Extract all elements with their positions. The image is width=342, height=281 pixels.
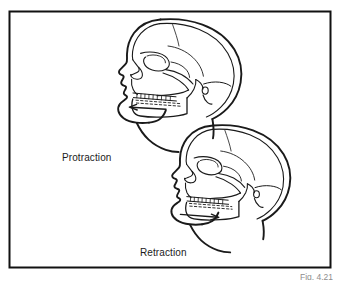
figure-border (10, 12, 331, 268)
label-protraction: Protraction (62, 152, 111, 163)
label-retraction: Retraction (140, 247, 187, 258)
skull-diagram-svg (0, 0, 342, 281)
figure-panel: Protraction Retraction Fig. 4.21 (0, 0, 342, 281)
figure-caption: Fig. 4.21 (300, 272, 333, 280)
